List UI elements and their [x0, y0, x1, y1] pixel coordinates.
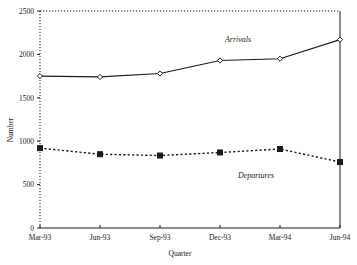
y-axis-title: Number — [6, 117, 15, 142]
data-point-arrivals — [37, 74, 42, 79]
data-point-arrivals — [337, 37, 342, 42]
series-annotations: ArrivalsDepartures — [224, 35, 274, 180]
x-tick-label: Dec-93 — [209, 233, 231, 242]
y-tick-label: 1500 — [19, 94, 34, 103]
x-tick-label: Jun-94 — [330, 233, 351, 242]
chart-container: 05001000150020002500 Mar-93Jun-93Sep-93D… — [0, 0, 357, 265]
data-point-departures — [158, 153, 163, 158]
x-axis-title: Quarter — [169, 249, 192, 258]
y-tick-label: 0 — [30, 224, 34, 233]
series-line-arrivals — [40, 40, 340, 77]
y-tick-label: 1000 — [19, 137, 34, 146]
data-point-departures — [98, 152, 103, 157]
line-chart: 05001000150020002500 Mar-93Jun-93Sep-93D… — [0, 0, 357, 265]
data-point-departures — [338, 160, 343, 165]
y-axis-tick-labels: 05001000150020002500 — [19, 7, 34, 233]
x-tick-label: Mar-94 — [269, 233, 292, 242]
data-point-departures — [38, 146, 43, 151]
x-axis-tick-labels: Mar-93Jun-93Sep-93Dec-93Mar-94Jun-94 — [29, 233, 351, 242]
series-line-departures — [40, 148, 340, 162]
data-point-departures — [278, 147, 283, 152]
y-tick-label: 500 — [23, 180, 35, 189]
data-point-departures — [218, 150, 223, 155]
data-point-arrivals — [157, 71, 162, 76]
series-lines — [40, 40, 340, 162]
x-tick-label: Mar-93 — [29, 233, 52, 242]
y-tick-label: 2000 — [19, 50, 34, 59]
x-tick-label: Sep-93 — [149, 233, 170, 242]
data-point-arrivals — [217, 58, 222, 63]
series-label-departures: Departures — [237, 171, 274, 180]
series-markers — [37, 37, 342, 164]
y-tick-label: 2500 — [19, 7, 34, 16]
plot-frame — [40, 11, 340, 228]
data-point-arrivals — [277, 56, 282, 61]
data-point-arrivals — [97, 74, 102, 79]
series-label-arrivals: Arrivals — [224, 35, 251, 44]
x-tick-label: Jun-93 — [90, 233, 111, 242]
